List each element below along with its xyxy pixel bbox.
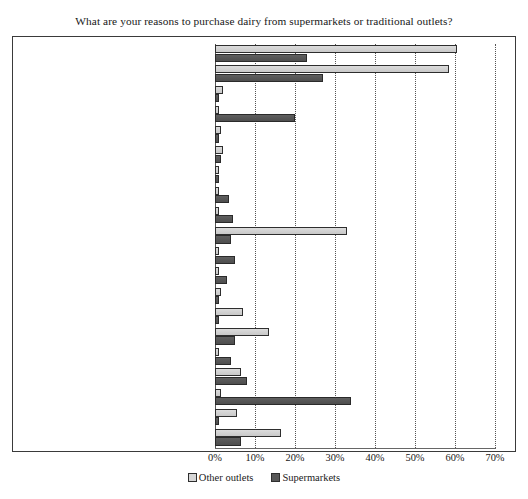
- bar-row: Nutritional value: [215, 408, 495, 428]
- bar-other-outlets: [215, 348, 219, 356]
- bar-other-outlets: [215, 45, 457, 53]
- bar-group: [215, 266, 495, 286]
- bar-supermarkets: [215, 276, 227, 284]
- x-axis-tick-labels: 0%10%20%30%40%50%60%70%: [215, 452, 496, 468]
- bar-supermarkets: [215, 377, 247, 385]
- legend-item-other[interactable]: Other outlets: [188, 472, 254, 483]
- bar-row: Parking facilities: [215, 185, 495, 205]
- bar-supermarkets: [215, 357, 231, 365]
- bar-row: Variety/assortment: [215, 307, 495, 327]
- x-tick-label: 20%: [285, 452, 304, 463]
- chart-legend: Other outletsSupermarkets: [0, 472, 528, 483]
- bar-group: [215, 387, 495, 407]
- bar-supermarkets: [215, 54, 307, 62]
- bar-other-outlets: [215, 429, 281, 437]
- bar-row: Price: [215, 428, 495, 448]
- x-tick-label: 40%: [365, 452, 384, 463]
- bar-supermarkets: [215, 74, 323, 82]
- bar-group: [215, 428, 495, 448]
- bar-other-outlets: [215, 368, 241, 376]
- bar-other-outlets: [215, 146, 223, 154]
- bar-group: [215, 64, 495, 84]
- bar-supermarkets: [215, 114, 295, 122]
- bar-group: [215, 125, 495, 145]
- bar-group: [215, 44, 495, 64]
- bar-other-outlets: [215, 86, 223, 94]
- chart-container: What are your reasons to purchase dairy …: [0, 0, 528, 499]
- bar-group: [215, 105, 495, 125]
- x-axis-line: [215, 448, 496, 449]
- bar-other-outlets: [215, 65, 449, 73]
- legend-swatch-icon: [271, 473, 280, 482]
- bar-row: Friendly service: [215, 145, 495, 165]
- bar-row: Credit facilities: [215, 84, 495, 104]
- bar-other-outlets: [215, 409, 237, 417]
- bar-row: Freshness: [215, 367, 495, 387]
- bar-supermarkets: [215, 94, 219, 102]
- bar-row: Small packs: [215, 266, 495, 286]
- bar-group: [215, 408, 495, 428]
- bar-other-outlets: [215, 308, 243, 316]
- bar-row: Buying culture & habits: [215, 44, 495, 64]
- bar-group: [215, 307, 495, 327]
- bar-row: Easy to shop from home: [215, 226, 495, 246]
- legend-swatch-icon: [188, 473, 197, 482]
- bar-row: Packaging: [215, 347, 495, 367]
- bar-other-outlets: [215, 126, 221, 134]
- plot-area: Buying culture & habitsLack of info abou…: [215, 44, 495, 448]
- bar-group: [215, 286, 495, 306]
- bar-other-outlets: [215, 288, 221, 296]
- bar-supermarkets: [215, 336, 235, 344]
- bar-row: Taste: [215, 327, 495, 347]
- bar-group: [215, 226, 495, 246]
- bar-row: Cleanliness: [215, 105, 495, 125]
- legend-label: Other outlets: [199, 472, 254, 483]
- x-tick-label: 70%: [485, 452, 504, 463]
- bar-group: [215, 347, 495, 367]
- bar-group: [215, 185, 495, 205]
- bar-supermarkets: [215, 175, 219, 183]
- bar-supermarkets: [215, 134, 219, 142]
- bar-group: [215, 367, 495, 387]
- bar-supermarkets: [215, 195, 229, 203]
- bar-other-outlets: [215, 389, 221, 397]
- bar-group: [215, 145, 495, 165]
- bar-row: Purchase in bulk: [215, 286, 495, 306]
- bar-row: Secure environment: [215, 165, 495, 185]
- bar-row: Lack of info about alternative outlets: [215, 64, 495, 84]
- bar-row: Easy to shop from work: [215, 246, 495, 266]
- bar-other-outlets: [215, 166, 219, 174]
- bar-supermarkets: [215, 437, 241, 445]
- bar-supermarkets: [215, 215, 233, 223]
- bar-supermarkets: [215, 155, 221, 163]
- bar-other-outlets: [215, 106, 219, 114]
- legend-item-super[interactable]: Supermarkets: [271, 472, 340, 483]
- x-tick-label: 50%: [405, 452, 424, 463]
- bar-other-outlets: [215, 267, 219, 275]
- bar-other-outlets: [215, 227, 347, 235]
- bar-row: Hygiene: [215, 387, 495, 407]
- x-tick-label: 60%: [445, 452, 464, 463]
- bar-other-outlets: [215, 207, 219, 215]
- bar-group: [215, 327, 495, 347]
- x-tick-label: 30%: [325, 452, 344, 463]
- bar-group: [215, 246, 495, 266]
- chart-title: What are your reasons to purchase dairy …: [0, 15, 528, 27]
- bar-supermarkets: [215, 316, 219, 324]
- bar-other-outlets: [215, 187, 219, 195]
- bar-row: Spaciousness: [215, 125, 495, 145]
- bar-supermarkets: [215, 417, 219, 425]
- bar-row: Nice environment: [215, 206, 495, 226]
- bar-group: [215, 165, 495, 185]
- x-tick-label: 0%: [208, 452, 222, 463]
- bar-group: [215, 84, 495, 104]
- bar-supermarkets: [215, 296, 219, 304]
- x-tick-label: 10%: [245, 452, 264, 463]
- bar-other-outlets: [215, 328, 269, 336]
- bar-other-outlets: [215, 247, 219, 255]
- bar-group: [215, 206, 495, 226]
- legend-label: Supermarkets: [282, 472, 340, 483]
- bar-supermarkets: [215, 397, 351, 405]
- bar-supermarkets: [215, 235, 231, 243]
- bar-supermarkets: [215, 256, 235, 264]
